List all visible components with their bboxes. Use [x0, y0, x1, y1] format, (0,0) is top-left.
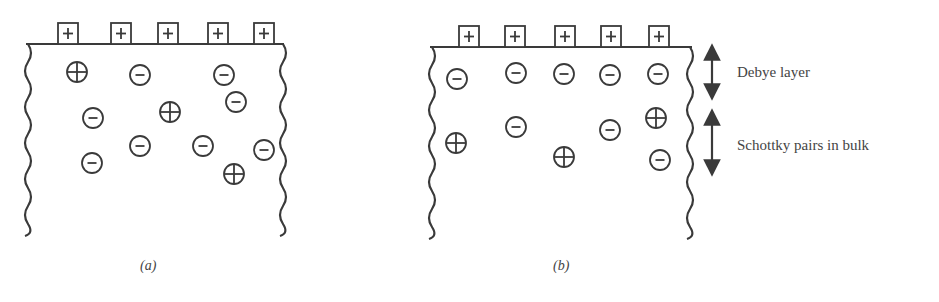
anion-vacancy-minus-icon: [554, 64, 574, 84]
debye-layer-label: Debye layer: [737, 64, 810, 81]
panel-b-caption: (b): [553, 258, 569, 274]
surface-cation-square-icon: [58, 23, 78, 44]
surface-cation-square-icon: [158, 23, 178, 44]
anion-vacancy-minus-icon: [600, 120, 620, 140]
surface-cation-square-icon: [459, 26, 479, 47]
anion-vacancy-minus-icon: [83, 108, 103, 128]
anion-vacancy-minus-icon: [254, 140, 274, 160]
panel-a-surface-charges: [58, 23, 274, 44]
cation-vacancy-plus-icon: [224, 164, 244, 184]
anion-vacancy-minus-icon: [130, 136, 150, 156]
panel-b-ions: [446, 63, 670, 170]
surface-cation-square-icon: [505, 26, 525, 47]
anion-vacancy-minus-icon: [506, 117, 526, 137]
panel-b-surface-charges: [459, 26, 669, 47]
anion-vacancy-minus-icon: [648, 64, 668, 84]
cation-vacancy-plus-icon: [646, 108, 666, 128]
anion-vacancy-minus-icon: [226, 92, 246, 112]
anion-vacancy-minus-icon: [447, 69, 467, 89]
anion-vacancy-minus-icon: [506, 63, 526, 83]
panel-a-caption: (a): [140, 258, 156, 274]
anion-vacancy-minus-icon: [650, 150, 670, 170]
surface-cation-square-icon: [601, 26, 621, 47]
anion-vacancy-minus-icon: [214, 65, 234, 85]
anion-vacancy-minus-icon: [82, 153, 102, 173]
schottky-pairs-label: Schottky pairs in bulk: [737, 137, 869, 154]
panel-b-right-wavy-edge: [687, 47, 693, 239]
surface-cation-square-icon: [208, 23, 228, 44]
panel-a-right-wavy-edge: [280, 44, 286, 236]
cation-vacancy-plus-icon: [67, 62, 87, 82]
panel-a-left-wavy-edge: [25, 44, 31, 236]
cation-vacancy-plus-icon: [554, 147, 574, 167]
cation-vacancy-plus-icon: [160, 102, 180, 122]
panel-a-crystal: [25, 44, 286, 236]
surface-cation-square-icon: [111, 23, 131, 44]
surface-cation-square-icon: [649, 26, 669, 47]
panel-b-left-wavy-edge: [429, 47, 435, 239]
anion-vacancy-minus-icon: [600, 65, 620, 85]
cation-vacancy-plus-icon: [446, 133, 466, 153]
anion-vacancy-minus-icon: [130, 65, 150, 85]
panel-a-ions: [67, 62, 274, 184]
surface-cation-square-icon: [254, 23, 274, 44]
anion-vacancy-minus-icon: [193, 136, 213, 156]
surface-cation-square-icon: [555, 26, 575, 47]
